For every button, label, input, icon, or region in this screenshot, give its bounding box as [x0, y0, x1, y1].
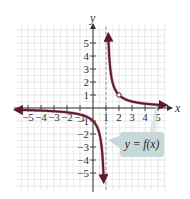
y-tick-label: 3: [84, 63, 90, 75]
y-axis-label: y: [89, 11, 96, 25]
y-tick-label: −4: [77, 154, 89, 166]
open-point: [117, 93, 121, 97]
x-axis-label: x: [174, 101, 181, 115]
y-tick-label: 4: [84, 50, 90, 62]
y-tick-label: −3: [77, 141, 89, 153]
grid: [17, 25, 166, 190]
x-tick-label: 4: [142, 111, 148, 123]
y-tick-label: 5: [84, 37, 90, 49]
x-tick-label: −4: [35, 111, 47, 123]
x-tick-label: 2: [116, 111, 122, 123]
y-tick-label: 1: [84, 89, 90, 101]
x-tick-label: 1: [103, 111, 109, 123]
callout-pointer: [108, 136, 120, 148]
y-tick-label: −5: [77, 167, 89, 179]
open-circle: [117, 93, 121, 97]
y-tick-label: 2: [84, 76, 90, 88]
x-tick-label: −5: [22, 111, 34, 123]
y-tick-label: −2: [77, 128, 89, 140]
x-tick-label: 3: [129, 111, 135, 123]
graph: −5−4−3−2−11234554321−1−2−3−4−5 y = f(x) …: [0, 0, 190, 199]
callout-label: y = f(x): [124, 138, 160, 151]
